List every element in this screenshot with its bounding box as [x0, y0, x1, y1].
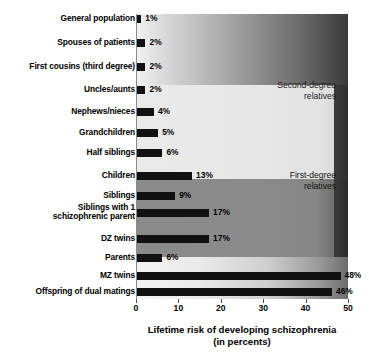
bar-value-label: 1% [145, 13, 157, 23]
bar [137, 63, 145, 71]
category-label: Spouses of patients [5, 38, 135, 48]
x-axis-title-line1: Lifetime risk of developing schizophreni… [148, 324, 337, 335]
category-label: Siblings [5, 191, 135, 201]
bar-row: Grandchildren5% [0, 123, 369, 143]
bar [137, 149, 162, 157]
bar [137, 39, 145, 47]
category-label: Children [5, 171, 135, 181]
bar [137, 172, 192, 180]
category-label: Nephews/nieces [5, 107, 135, 117]
bar-value-label: 17% [213, 233, 230, 243]
bar-value-label: 2% [149, 61, 161, 71]
bar-value-label: 46% [336, 286, 353, 296]
bar-row: Half siblings6% [0, 143, 369, 163]
bar-value-label: 2% [149, 37, 161, 47]
category-label: Siblings with 1schizophrenic parent [5, 203, 135, 222]
schizophrenia-risk-bar-chart: Second-degree relatives First-degree rel… [0, 0, 369, 356]
bar-value-label: 2% [149, 84, 161, 94]
x-axis: 01020304050 [0, 299, 369, 313]
category-label: Offspring of dual matings [5, 287, 135, 297]
bar-row: Children13% [0, 166, 369, 186]
x-axis-tick-label: 50 [343, 303, 353, 313]
bar [137, 272, 341, 280]
category-label: Grandchildren [5, 128, 135, 138]
x-axis-tick-label: 40 [301, 303, 311, 313]
bar-value-label: 17% [213, 207, 230, 217]
category-label: Half siblings [5, 148, 135, 158]
category-label: First cousins (third degree) [5, 62, 135, 72]
bar-value-label: 9% [179, 190, 191, 200]
category-label: Parents [5, 253, 135, 263]
x-axis-title-line2: (in percents) [213, 336, 271, 347]
bar [137, 86, 145, 94]
bar-row: Nephews/nieces4% [0, 102, 369, 122]
x-axis-tick-label: 10 [174, 303, 184, 313]
bar-row: General population1% [0, 9, 369, 29]
category-label: MZ twins [5, 271, 135, 281]
x-axis-tick-label: 20 [216, 303, 226, 313]
bar-value-label: 5% [162, 127, 174, 137]
bar [137, 108, 154, 116]
category-label: Uncles/aunts [5, 85, 135, 95]
bar [137, 209, 209, 217]
bar-value-label: 6% [166, 252, 178, 262]
bar-value-label: 6% [166, 147, 178, 157]
category-label: DZ twins [5, 234, 135, 244]
bar-row: Siblings with 1schizophrenic parent17% [0, 203, 369, 223]
bar-row: Spouses of patients2% [0, 33, 369, 53]
bar [137, 15, 141, 23]
bar [137, 288, 332, 296]
bar-row: Parents6% [0, 248, 369, 268]
bar [137, 192, 175, 200]
bar-value-label: 13% [196, 170, 213, 180]
bar [137, 129, 158, 137]
x-axis-tick-label: 30 [258, 303, 268, 313]
bar-value-label: 4% [158, 106, 170, 116]
bar-row: DZ twins17% [0, 229, 369, 249]
x-axis-tick-label: 0 [134, 303, 139, 313]
bar [137, 254, 162, 262]
bar-value-label: 48% [345, 270, 362, 280]
bar [137, 235, 209, 243]
category-label-line2: schizophrenic parent [53, 211, 135, 221]
bar-row: First cousins (third degree)2% [0, 57, 369, 77]
bar-row: Uncles/aunts2% [0, 80, 369, 100]
x-axis-title: Lifetime risk of developing schizophreni… [124, 324, 360, 347]
category-label: General population [5, 14, 135, 24]
